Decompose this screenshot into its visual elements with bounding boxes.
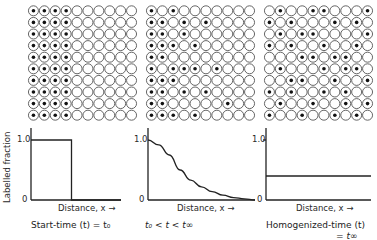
- labelled-dot: [43, 90, 47, 94]
- labelled-dot: [193, 67, 197, 71]
- cell-circle: [330, 87, 340, 97]
- cell-circle: [308, 41, 318, 51]
- cell-circle: [245, 64, 255, 74]
- cell-circle: [94, 87, 104, 97]
- cell-circle: [105, 52, 115, 62]
- cell-circle: [352, 87, 362, 97]
- labelled-dot: [161, 102, 165, 106]
- tick-bottom-1: 0: [22, 194, 27, 204]
- cell-circle: [234, 41, 244, 51]
- cell-circle: [201, 52, 211, 62]
- labelled-dot: [43, 21, 47, 25]
- labelled-dot: [355, 21, 359, 25]
- labelled-dot: [53, 79, 57, 83]
- cell-circle: [105, 110, 115, 120]
- cell-circle: [94, 110, 104, 120]
- labelled-dot: [32, 67, 36, 71]
- cell-circle: [223, 110, 233, 120]
- labelled-dot: [193, 113, 197, 117]
- cell-circle: [297, 17, 307, 27]
- cell-circle: [127, 75, 137, 85]
- labelled-dot: [32, 79, 36, 83]
- labelled-dot: [150, 32, 154, 36]
- cell-circle: [212, 87, 222, 97]
- cell-circle: [286, 64, 296, 74]
- labelled-dot: [64, 90, 68, 94]
- caption-homogenized: Homogenized-time (t): [266, 220, 365, 230]
- cell-circle: [264, 64, 274, 74]
- tick-top-2: 1.0: [134, 134, 148, 144]
- labelled-dot: [182, 32, 186, 36]
- labelled-dot: [150, 21, 154, 25]
- labelled-dot: [300, 79, 304, 83]
- cell-circle: [319, 75, 329, 85]
- cell-circle: [179, 41, 189, 51]
- cell-circle: [308, 110, 318, 120]
- cell-circle: [223, 87, 233, 97]
- cell-circle: [179, 99, 189, 109]
- labelled-dot: [268, 90, 272, 94]
- cell-grid-intermediate: [145, 4, 256, 122]
- cell-circle: [352, 6, 362, 16]
- cell-circle: [72, 52, 82, 62]
- cell-circle: [190, 75, 200, 85]
- labelled-dot: [43, 79, 47, 83]
- cell-circle: [157, 64, 167, 74]
- cell-circle: [201, 29, 211, 39]
- labelled-dot: [182, 21, 186, 25]
- cell-circle: [297, 41, 307, 51]
- labelled-dot: [161, 113, 165, 117]
- labelled-dot: [150, 67, 154, 71]
- tick-top-3: 1.0: [252, 134, 266, 144]
- cell-circle: [363, 64, 373, 74]
- tick-bottom-2: 0: [139, 194, 144, 204]
- labelled-dot: [32, 90, 36, 94]
- cell-circle: [245, 52, 255, 62]
- decay-plot: [148, 122, 258, 204]
- cell-circle: [341, 17, 351, 27]
- cell-circle: [116, 75, 126, 85]
- labelled-dot: [150, 55, 154, 59]
- x-axis-label-2: Distance, x →: [177, 203, 234, 213]
- labelled-dot: [344, 102, 348, 106]
- cell-circle: [127, 110, 137, 120]
- cell-circle: [72, 64, 82, 74]
- cell-circle: [116, 52, 126, 62]
- labelled-dot: [268, 44, 272, 48]
- cell-circle: [264, 6, 274, 16]
- labelled-dot: [32, 9, 36, 13]
- cell-circle: [212, 75, 222, 85]
- cell-circle: [245, 29, 255, 39]
- labelled-dot: [150, 79, 154, 83]
- cell-circle: [330, 29, 340, 39]
- cell-circle: [245, 99, 255, 109]
- labelled-dot: [64, 44, 68, 48]
- cell-circle: [234, 52, 244, 62]
- cell-circle: [234, 75, 244, 85]
- cell-circle: [179, 110, 189, 120]
- cell-circle: [212, 6, 222, 16]
- cell-circle: [341, 110, 351, 120]
- labelled-dot: [333, 79, 337, 83]
- labelled-dot: [53, 102, 57, 106]
- labelled-dot: [171, 113, 175, 117]
- labelled-dot: [344, 67, 348, 71]
- caption-homogenized-line2: = t∞: [336, 231, 357, 240]
- labelled-dot: [150, 90, 154, 94]
- cell-circle: [319, 99, 329, 109]
- labelled-dot: [344, 55, 348, 59]
- labelled-dot: [64, 67, 68, 71]
- labelled-dot: [150, 102, 154, 106]
- labelled-dot: [204, 90, 208, 94]
- labelled-dot: [311, 32, 315, 36]
- cell-circle: [201, 110, 211, 120]
- cell-circle: [363, 52, 373, 62]
- cell-circle: [297, 99, 307, 109]
- labelled-dot: [366, 9, 370, 13]
- labelled-dot: [268, 113, 272, 117]
- cell-circle: [105, 87, 115, 97]
- labelled-dot: [333, 113, 337, 117]
- cell-circle: [190, 99, 200, 109]
- labelled-dot: [161, 21, 165, 25]
- step-plot: [31, 122, 126, 204]
